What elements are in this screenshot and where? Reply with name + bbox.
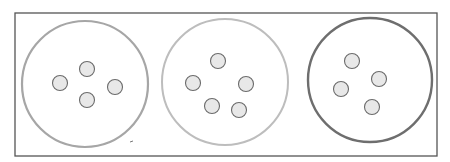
dot bbox=[80, 62, 95, 77]
circle-group-1 bbox=[22, 21, 148, 147]
dot bbox=[345, 54, 360, 69]
dot bbox=[232, 103, 247, 118]
outer-circle bbox=[22, 21, 148, 147]
dot-groups-diagram bbox=[0, 0, 450, 162]
dot bbox=[334, 82, 349, 97]
dot bbox=[53, 76, 68, 91]
dot bbox=[372, 72, 387, 87]
dot bbox=[365, 100, 380, 115]
outer-circle bbox=[162, 19, 288, 145]
circle-groups bbox=[22, 18, 432, 147]
dot bbox=[205, 99, 220, 114]
stray-pen-mark bbox=[130, 141, 133, 142]
dot bbox=[108, 80, 123, 95]
outer-circle bbox=[308, 18, 432, 142]
circle-group-3 bbox=[308, 18, 432, 142]
circle-group-2 bbox=[162, 19, 288, 145]
dot bbox=[239, 77, 254, 92]
dot bbox=[211, 54, 226, 69]
dot bbox=[186, 76, 201, 91]
dot bbox=[80, 93, 95, 108]
